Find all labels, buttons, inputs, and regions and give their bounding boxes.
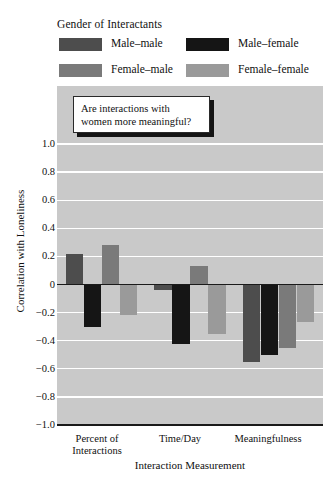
legend-entry-male-female: Male–female [186,36,299,52]
bar-percent-of-interactions-female-male [102,245,120,284]
y-tick-label-1: 1.0 [9,139,55,149]
bar-meaningfulness-male-male [243,285,261,362]
plot-data-region [57,144,323,425]
annotation-callout-text: Are interactions with women more meaning… [81,102,207,128]
legend-entry-male-male: Male–male [59,36,163,52]
legend-label-male-female: Male–female [238,38,299,50]
gridline-0p2 [57,256,323,257]
bar-percent-of-interactions-male-female [84,285,102,327]
x-tick-label-meaningfulness: Meaningfulness [220,433,316,445]
legend-swatch-male-male [59,38,102,51]
plot-area [57,86,323,426]
bar-time-day-male-male [154,285,172,291]
legend-swatch-female-male [59,64,102,77]
legend-entry-female-male: Female–male [59,62,173,78]
bar-chart-figure: Gender of Interactants Male–male Male–fe… [0,0,332,482]
x-tick-label-time-per-day: Time/Day [143,433,217,445]
x-tick-label-percent-of-interactions: Percent of Interactions [60,433,134,457]
y-axis-ticks: 1.00.80.60.40.20−0.2−0.4−0.6−0.8−1.0 [3,86,55,426]
gridline-1 [57,143,323,144]
x-axis-title: Interaction Measurement [57,459,323,471]
legend-entry-female-female: Female–female [186,62,309,78]
gridline-0p6 [57,200,323,201]
bar-percent-of-interactions-female-female [120,285,138,316]
legend-swatch-female-female [186,64,229,77]
y-tick-label-neg1: −1.0 [9,420,55,430]
gridline-0p4 [57,228,323,229]
bar-meaningfulness-male-female [261,285,279,355]
legend-label-female-male: Female–male [111,64,173,76]
legend-swatch-male-female [186,38,229,51]
gridline-neg0p6 [57,368,323,369]
bar-meaningfulness-female-female [297,285,315,323]
annotation-callout-box: Are interactions with women more meaning… [73,96,210,133]
bar-time-day-male-female [172,285,190,344]
bar-time-day-female-male [190,266,208,284]
annotation-callout: Are interactions with women more meaning… [73,96,210,133]
gridline-neg0p8 [57,396,323,397]
legend-title: Gender of Interactants [57,18,162,30]
bar-percent-of-interactions-male-male [66,254,84,285]
gridline-0p8 [57,171,323,172]
x-axis-line [57,424,323,426]
y-tick-label-neg0p8: −0.8 [9,392,55,402]
bar-meaningfulness-female-male [279,285,297,348]
legend-label-male-male: Male–male [111,38,163,50]
legend-label-female-female: Female–female [238,64,309,76]
bar-time-day-female-female [208,285,226,334]
y-tick-label-neg0p6: −0.6 [9,364,55,374]
y-axis-title: Correlation with Loneliness [14,151,26,351]
